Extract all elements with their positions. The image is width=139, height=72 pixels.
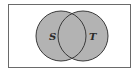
venn-diagram: S T	[0, 0, 139, 72]
set-s-label: S	[49, 31, 56, 42]
